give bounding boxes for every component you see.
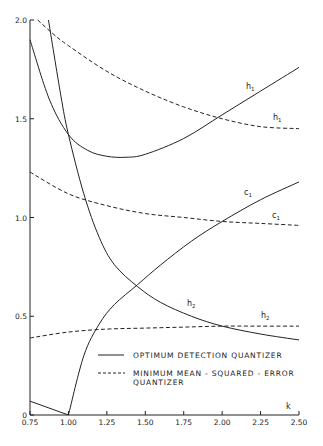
y-tick-label: 0.5	[15, 312, 27, 321]
legend: OPTIMUM DETECTION QUANTIZER MINIMUM MEAN…	[98, 351, 295, 387]
x-tick-label: 1.75	[175, 418, 192, 427]
x-tick-label: 2.50	[291, 418, 308, 427]
x-tick-label: 2.25	[252, 418, 269, 427]
tick-labels: 0.751.001.251.501.752.002.252.5000.51.01…	[15, 16, 308, 427]
curve-c1-dashed	[30, 172, 299, 225]
legend-dashed-label-line1: MINIMUM MEAN - SQUARED - ERROR	[133, 369, 295, 378]
label-c1-dashed: c1	[272, 211, 280, 221]
label-h2-dashed: h2	[261, 311, 270, 321]
curve-h1-solid	[30, 40, 299, 158]
label-h1-dashed: h1	[273, 113, 282, 123]
legend-dashed-label-line2: QUANTIZER	[133, 378, 184, 387]
curve-h2-solid	[48, 20, 299, 340]
legend-solid-label: OPTIMUM DETECTION QUANTIZER	[133, 351, 282, 360]
y-tick-label: 0	[22, 411, 27, 420]
label-h1-solid: h1	[246, 82, 255, 92]
x-tick-label: 2.00	[214, 418, 231, 427]
x-tick-label: 1.50	[137, 418, 154, 427]
chart: 0.751.001.251.501.752.002.252.5000.51.01…	[0, 0, 323, 446]
x-axis-label: k	[286, 402, 291, 411]
y-tick-label: 1.5	[15, 115, 27, 124]
y-tick-label: 1.0	[15, 214, 27, 223]
x-tick-label: 1.25	[99, 418, 116, 427]
curve-h2-dashed	[30, 326, 299, 338]
y-tick-label: 2.0	[15, 16, 27, 25]
curve-h1-dashed	[38, 20, 299, 129]
label-c1-solid: c1	[244, 188, 252, 198]
x-tick-label: 1.00	[60, 418, 77, 427]
label-h2-solid: h2	[187, 299, 196, 309]
